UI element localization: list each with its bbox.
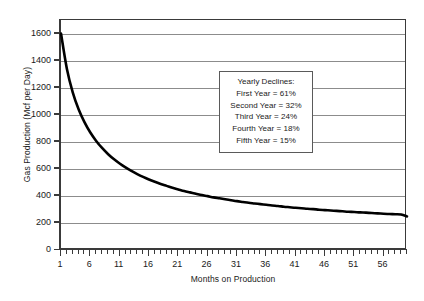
x-tick-minor xyxy=(224,250,225,254)
x-tick-minor xyxy=(283,250,284,254)
x-tick-major xyxy=(60,250,61,256)
x-tick-minor xyxy=(336,250,337,254)
x-tick-minor xyxy=(330,250,331,254)
x-tick-major xyxy=(177,250,178,256)
y-tick-label: 1400 xyxy=(31,54,51,66)
x-tick-label: 36 xyxy=(250,258,280,270)
y-tick-label: 200 xyxy=(36,216,51,228)
x-tick-minor xyxy=(66,250,67,254)
x-tick-minor xyxy=(259,250,260,254)
x-tick-minor xyxy=(136,250,137,254)
x-tick-minor xyxy=(306,250,307,254)
x-tick-major xyxy=(119,250,120,256)
annotation-title: Yearly Declines: xyxy=(223,76,309,88)
x-tick-minor xyxy=(271,250,272,254)
x-tick-minor xyxy=(183,250,184,254)
y-tick: 400 xyxy=(0,189,60,201)
x-tick-minor xyxy=(406,250,407,254)
x-tick-label: 1 xyxy=(45,258,75,270)
x-tick-minor xyxy=(365,250,366,254)
x-tick-minor xyxy=(254,250,255,254)
x-tick-minor xyxy=(130,250,131,254)
x-tick-label: 16 xyxy=(133,258,163,270)
y-tick: 1400 xyxy=(0,54,60,66)
x-tick-minor xyxy=(201,250,202,254)
x-tick-minor xyxy=(160,250,161,254)
x-tick-major xyxy=(324,250,325,256)
x-tick-minor xyxy=(400,250,401,254)
x-tick-major xyxy=(148,250,149,256)
annotation-line-fifth-year: Fifth Year = 15% xyxy=(223,135,309,147)
x-tick-minor xyxy=(218,250,219,254)
x-tick-major xyxy=(89,250,90,256)
y-tick-label: 800 xyxy=(36,135,51,147)
x-tick-minor xyxy=(312,250,313,254)
x-tick-minor xyxy=(300,250,301,254)
x-tick-label: 41 xyxy=(280,258,310,270)
y-tick-label: 400 xyxy=(36,189,51,201)
x-tick-minor xyxy=(230,250,231,254)
yearly-declines-annotation: Yearly Declines: First Year = 61% Second… xyxy=(219,71,313,153)
x-tick-major xyxy=(265,250,266,256)
x-tick-minor xyxy=(95,250,96,254)
x-tick-minor xyxy=(377,250,378,254)
x-tick-label: 56 xyxy=(368,258,398,270)
x-tick-minor xyxy=(371,250,372,254)
x-tick-minor xyxy=(341,250,342,254)
x-tick-major xyxy=(353,250,354,256)
y-tick-label: 600 xyxy=(36,162,51,174)
x-tick-minor xyxy=(277,250,278,254)
annotation-line-first-year: First Year = 61% xyxy=(223,88,309,100)
annotation-line-fourth-year: Fourth Year = 18% xyxy=(223,123,309,135)
annotation-line-second-year: Second Year = 32% xyxy=(223,100,309,112)
x-tick-minor xyxy=(242,250,243,254)
x-tick-minor xyxy=(212,250,213,254)
x-axis-tick-labels: 1611162126313641465156 xyxy=(0,258,424,272)
x-tick-label: 31 xyxy=(221,258,251,270)
x-tick-label: 6 xyxy=(74,258,104,270)
x-tick-label: 11 xyxy=(104,258,134,270)
x-tick-major xyxy=(383,250,384,256)
x-tick-minor xyxy=(195,250,196,254)
y-tick-label: 1200 xyxy=(31,81,51,93)
x-tick-minor xyxy=(388,250,389,254)
x-tick-minor xyxy=(83,250,84,254)
x-axis-title: Months on Production xyxy=(60,274,406,284)
x-tick-minor xyxy=(189,250,190,254)
x-tick-minor xyxy=(289,250,290,254)
x-tick-label: 46 xyxy=(309,258,339,270)
x-tick-minor xyxy=(394,250,395,254)
y-tick-label: 1000 xyxy=(31,108,51,120)
x-tick-minor xyxy=(142,250,143,254)
x-tick-minor xyxy=(166,250,167,254)
y-tick: 1600 xyxy=(0,27,60,39)
x-tick-minor xyxy=(101,250,102,254)
x-tick-minor xyxy=(125,250,126,254)
x-tick-minor xyxy=(78,250,79,254)
y-tick: 800 xyxy=(0,135,60,147)
decline-curve-chart: Gas Production (Mcf per Day) 02004006008… xyxy=(0,0,424,301)
x-tick-major xyxy=(295,250,296,256)
x-tick-minor xyxy=(113,250,114,254)
x-tick-minor xyxy=(347,250,348,254)
x-tick-minor xyxy=(72,250,73,254)
y-tick-label: 1600 xyxy=(31,27,51,39)
annotation-line-third-year: Third Year = 24% xyxy=(223,111,309,123)
x-tick-major xyxy=(236,250,237,256)
y-tick: 1200 xyxy=(0,81,60,93)
x-tick-minor xyxy=(318,250,319,254)
x-tick-label: 51 xyxy=(338,258,368,270)
x-tick-label: 26 xyxy=(192,258,222,270)
x-tick-minor xyxy=(154,250,155,254)
x-tick-minor xyxy=(107,250,108,254)
x-tick-minor xyxy=(248,250,249,254)
y-tick: 200 xyxy=(0,216,60,228)
x-tick-label: 21 xyxy=(162,258,192,270)
x-tick-minor xyxy=(171,250,172,254)
x-tick-major xyxy=(207,250,208,256)
y-tick: 1000 xyxy=(0,108,60,120)
x-tick-minor xyxy=(359,250,360,254)
y-tick: 600 xyxy=(0,162,60,174)
